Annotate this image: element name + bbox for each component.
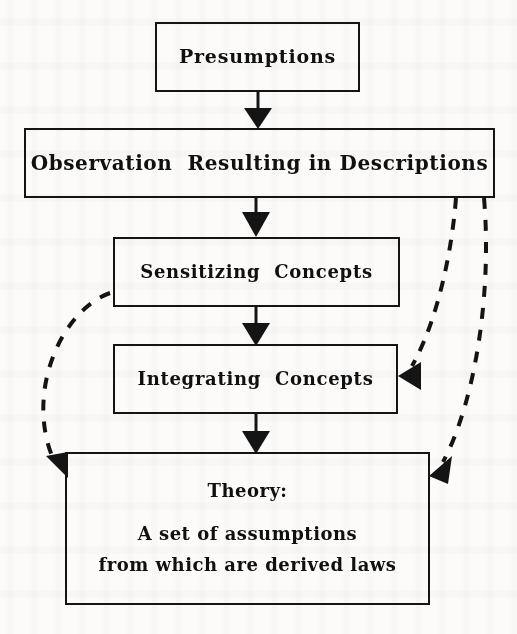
node-sensitizing-concepts-label: Sensitizing Concepts [140,262,373,283]
node-observation[interactable]: Observation Resulting in Descriptions [24,128,495,198]
arrowhead-down-left-icon [429,456,452,484]
connector-integrating-to-theory [242,414,270,454]
arrowhead-down-icon [242,431,270,454]
node-integrating-concepts[interactable]: Integrating Concepts [113,344,398,414]
arrowhead-down-icon [244,108,272,129]
node-presumptions[interactable]: Presumptions [155,22,360,92]
node-integrating-concepts-label: Integrating Concepts [138,369,374,390]
connector-observation-to-integrating [398,198,456,390]
node-presumptions-label: Presumptions [179,46,336,68]
arrowhead-down-icon [242,212,270,237]
node-theory-line-2: A set of assumptions [138,524,357,545]
node-sensitizing-concepts[interactable]: Sensitizing Concepts [113,237,400,307]
diagram-page: Presumptions Observation Resulting in De… [0,0,517,634]
arrowhead-down-icon [242,323,270,346]
connector-sensitizing-to-theory [43,293,110,478]
connector-sensitizing-to-integrating [242,307,270,346]
arrowhead-left-icon [398,362,421,390]
node-theory[interactable]: Theory: A set of assumptions from which … [65,452,430,605]
connector-observation-to-theory [429,198,486,484]
connector-observation-to-sensitizing [242,198,270,237]
node-observation-label: Observation Resulting in Descriptions [31,152,489,175]
node-theory-title: Theory: [207,481,287,502]
connector-presumptions-to-observation [244,92,272,129]
node-theory-line-3: from which are derived laws [99,555,397,576]
